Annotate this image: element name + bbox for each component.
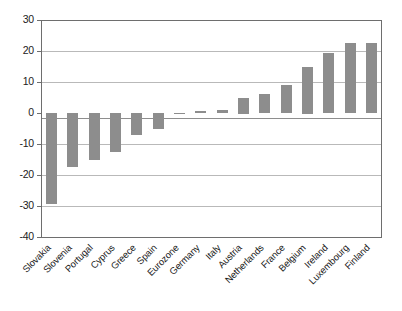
y-axis-tick-label: 30 [8, 13, 34, 25]
bar [323, 53, 334, 113]
plot-top-border [41, 20, 382, 21]
bar [238, 98, 249, 114]
bar [195, 111, 206, 113]
gridline [41, 175, 382, 176]
y-axis-tick-label: -10 [8, 137, 34, 149]
bar [89, 113, 100, 160]
bar-chart: 3020100-10-20-30-40 SlovakiaSloveniaPort… [0, 0, 402, 311]
bar [46, 113, 57, 204]
bar [217, 110, 228, 113]
y-axis-tick-label: -20 [8, 168, 34, 180]
y-axis-tick-label: 10 [8, 75, 34, 87]
bar [259, 94, 270, 113]
bar [174, 113, 185, 114]
y-axis-tick-label: -40 [8, 230, 34, 242]
x-axis-line [41, 237, 382, 238]
plot-right-border [381, 20, 382, 238]
gridline [41, 51, 382, 52]
bar [281, 85, 292, 113]
gridline [41, 206, 382, 207]
y-axis-tick-label: 0 [8, 106, 34, 118]
bar [302, 67, 313, 114]
bar [131, 113, 142, 135]
y-axis-tick-label: 20 [8, 44, 34, 56]
y-axis-line [41, 20, 42, 238]
bar [366, 43, 377, 113]
bar [153, 113, 164, 129]
bar [345, 43, 356, 113]
zero-line [41, 118, 382, 119]
y-axis-tick-label: -30 [8, 199, 34, 211]
bar [67, 113, 78, 167]
